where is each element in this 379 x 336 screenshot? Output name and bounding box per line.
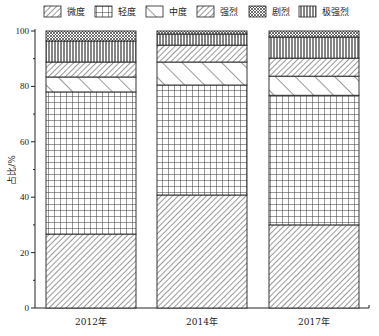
legend: 微度轻度中度强烈剧烈极强烈 bbox=[44, 6, 349, 17]
y-tick-label: 100 bbox=[16, 26, 30, 36]
bar-segment-轻度 bbox=[269, 95, 359, 225]
x-tick-label: 2017年 bbox=[298, 316, 330, 327]
x-tick-label: 2014年 bbox=[186, 316, 218, 327]
bar-segment-剧烈 bbox=[46, 31, 136, 41]
bar-segment-轻度 bbox=[46, 92, 136, 234]
bar-segment-中度 bbox=[46, 77, 136, 92]
legend-item: 轻度 bbox=[95, 6, 136, 17]
bar-segment-中度 bbox=[157, 62, 247, 85]
legend-label: 剧烈 bbox=[272, 7, 290, 17]
y-tick-label: 20 bbox=[20, 248, 30, 258]
y-tick-label: 60 bbox=[20, 137, 30, 147]
y-tick-label: 80 bbox=[20, 81, 30, 91]
bar-segment-极强烈 bbox=[46, 41, 136, 62]
bars bbox=[46, 31, 359, 308]
legend-item: 微度 bbox=[44, 6, 85, 17]
bar-segment-轻度 bbox=[157, 85, 247, 195]
legend-swatch bbox=[299, 6, 316, 17]
legend-item: 中度 bbox=[146, 6, 187, 17]
bar-2017年 bbox=[269, 31, 359, 308]
legend-label: 极强烈 bbox=[322, 6, 349, 17]
legend-swatch bbox=[44, 6, 61, 17]
legend-swatch bbox=[249, 6, 266, 17]
legend-swatch bbox=[197, 6, 214, 17]
y-tick-label: 0 bbox=[25, 303, 30, 313]
bar-segment-极强烈 bbox=[269, 37, 359, 58]
legend-swatch bbox=[95, 6, 112, 17]
x-tick-label: 2012年 bbox=[75, 316, 107, 327]
bar-segment-强烈 bbox=[269, 58, 359, 76]
y-axis-title: 占比/% bbox=[6, 155, 17, 185]
legend-label: 强烈 bbox=[220, 7, 238, 17]
bar-segment-剧烈 bbox=[157, 31, 247, 34]
legend-label: 轻度 bbox=[118, 6, 136, 17]
bar-segment-强烈 bbox=[46, 62, 136, 77]
bar-segment-微度 bbox=[269, 225, 359, 308]
legend-item: 剧烈 bbox=[249, 6, 290, 17]
bar-segment-微度 bbox=[46, 234, 136, 308]
legend-item: 强烈 bbox=[197, 6, 238, 17]
legend-label: 微度 bbox=[67, 6, 85, 17]
legend-swatch bbox=[146, 6, 163, 17]
bar-segment-剧烈 bbox=[269, 31, 359, 37]
bar-2014年 bbox=[157, 31, 247, 308]
bar-segment-极强烈 bbox=[157, 34, 247, 45]
stacked-bar-chart: 微度轻度中度强烈剧烈极强烈 020406080100占比/%2012年2014年… bbox=[0, 0, 379, 336]
y-tick-label: 40 bbox=[20, 192, 30, 202]
bar-segment-微度 bbox=[157, 195, 247, 308]
bar-2012年 bbox=[46, 31, 136, 308]
legend-item: 极强烈 bbox=[299, 6, 349, 17]
bar-segment-中度 bbox=[269, 76, 359, 95]
legend-label: 中度 bbox=[169, 6, 187, 17]
bar-segment-强烈 bbox=[157, 45, 247, 62]
